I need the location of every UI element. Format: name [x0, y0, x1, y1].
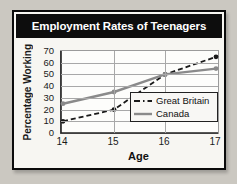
chart-legend: Great Britain Canada: [130, 92, 218, 122]
legend-label-canada: Canada: [156, 108, 189, 119]
y-tick-label-40: 40: [43, 80, 54, 91]
x-tick-label-15: 15: [107, 136, 118, 147]
h-gridline-50: [61, 74, 218, 75]
data-point-canada-age-14: [61, 101, 66, 106]
y-tick-label-60: 60: [43, 56, 54, 67]
h-gridline-40: [61, 86, 218, 87]
y-tick-label-0: 0: [49, 127, 54, 138]
page-background: Employment Rates of Teenagers Percentage…: [0, 0, 237, 184]
great-britain-line-sample: [134, 98, 152, 104]
legend-item-great-britain: Great Britain: [134, 95, 214, 107]
x-tick-label-16: 16: [158, 136, 169, 147]
h-gridline-60: [61, 63, 218, 64]
x-tick-label-14: 14: [56, 136, 67, 147]
y-tick-label-50: 50: [43, 68, 54, 79]
y-tick-label-70: 70: [43, 45, 54, 56]
x-axis-title: Age: [60, 150, 217, 162]
x-axis-ticks: 14151617: [60, 136, 217, 148]
data-point-canada-age-17: [214, 66, 219, 71]
v-gridline-15: [114, 51, 115, 133]
canada-line-sample: [134, 111, 152, 117]
chart-title: Employment Rates of Teenagers: [16, 14, 222, 38]
y-tick-label-30: 30: [43, 91, 54, 102]
legend-label-great-britain: Great Britain: [156, 95, 209, 106]
y-tick-label-10: 10: [43, 115, 54, 126]
x-tick-label-17: 17: [209, 136, 220, 147]
y-tick-label-20: 20: [43, 103, 54, 114]
data-point-great-britain-age-17: [214, 54, 219, 59]
legend-item-canada: Canada: [134, 108, 214, 120]
y-axis-ticks: 706050403020100: [34, 50, 57, 132]
y-axis-title: Percentage Working: [20, 48, 34, 136]
employment-chart: Employment Rates of Teenagers Percentage…: [12, 10, 226, 170]
